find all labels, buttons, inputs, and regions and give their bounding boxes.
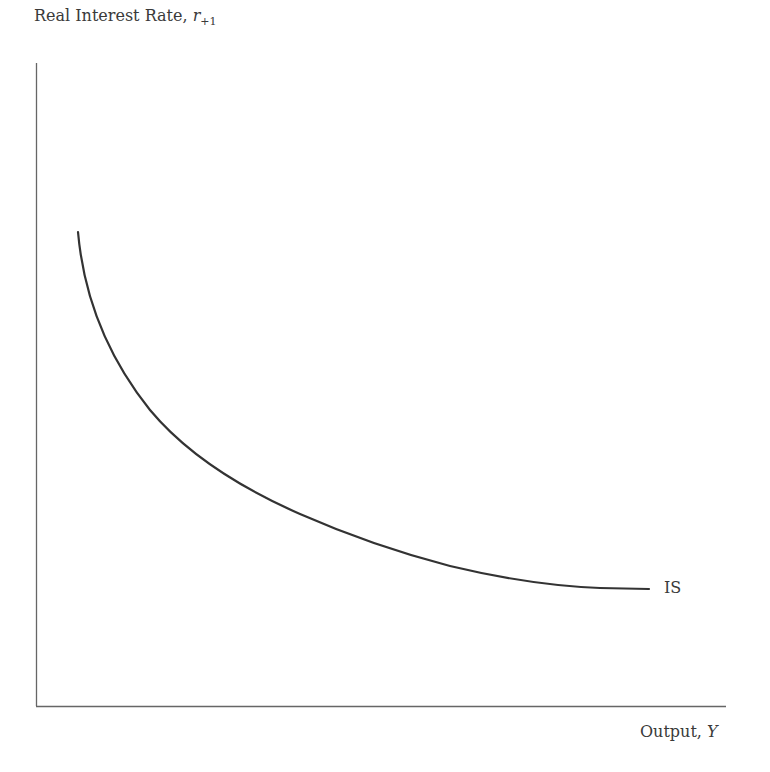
x-axis-label: Output, Y bbox=[640, 722, 718, 741]
is-curve-label: IS bbox=[664, 578, 681, 597]
y-axis-subscript: +1 bbox=[200, 15, 216, 28]
x-axis-variable: Y bbox=[707, 722, 718, 741]
y-axis-label: Real Interest Rate, r+1 bbox=[34, 6, 217, 28]
x-axis-label-text: Output, bbox=[640, 722, 707, 741]
is-curve bbox=[78, 232, 649, 589]
y-axis-label-text: Real Interest Rate, bbox=[34, 6, 193, 25]
diagram-canvas bbox=[0, 0, 770, 772]
